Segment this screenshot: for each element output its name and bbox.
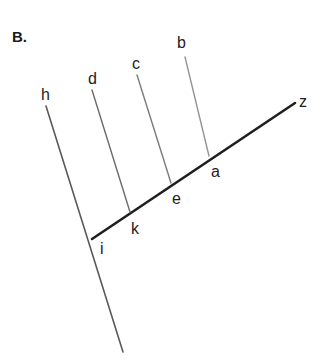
label-z: z xyxy=(299,94,307,110)
backbone-i-z xyxy=(92,103,295,239)
label-c: c xyxy=(132,56,140,72)
branch-b xyxy=(185,57,209,156)
branch-c xyxy=(137,75,171,183)
diagram-canvas xyxy=(0,0,323,364)
label-k: k xyxy=(131,221,139,237)
label-h: h xyxy=(41,87,50,103)
label-e: e xyxy=(172,191,181,207)
label-i: i xyxy=(100,241,104,257)
branch-d xyxy=(92,90,130,212)
branch-h xyxy=(46,106,123,352)
figure-panel-b: B. hdcbzaeki xyxy=(0,0,323,364)
label-b: b xyxy=(177,35,186,51)
label-d: d xyxy=(88,71,97,87)
label-a: a xyxy=(211,164,220,180)
diagram-lines xyxy=(46,57,295,352)
